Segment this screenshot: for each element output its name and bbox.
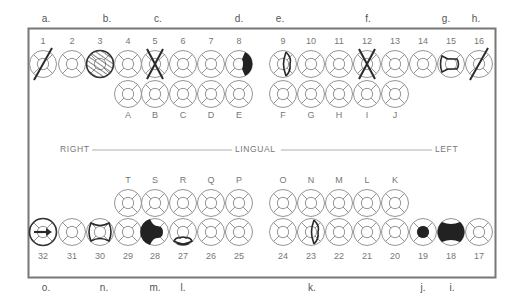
tooth-25[interactable] [226, 219, 253, 246]
annotation-label: i. [450, 282, 455, 293]
annotation-label: m. [149, 282, 160, 293]
tooth-28[interactable] [140, 219, 168, 246]
tooth-1[interactable] [30, 48, 57, 80]
tooth-number: 20 [390, 251, 400, 261]
tooth-letter: O [279, 175, 286, 185]
tooth-17[interactable] [466, 219, 493, 246]
tooth-11[interactable] [326, 51, 353, 78]
tooth-number: 24 [278, 251, 288, 261]
tooth-letter: I [366, 110, 369, 120]
tooth-32[interactable] [30, 219, 57, 246]
annotation-label: f. [365, 13, 371, 24]
primary-tooth-I[interactable] [354, 81, 381, 108]
tooth-letter: M [335, 175, 343, 185]
primary-tooth-C[interactable] [170, 81, 197, 108]
tooth-10[interactable] [298, 51, 325, 78]
tooth-9[interactable] [270, 51, 297, 78]
tooth-letter: C [180, 110, 187, 120]
tooth-letter: B [152, 110, 158, 120]
lingual-midline: RIGHT LINGUAL LEFT [60, 144, 458, 154]
tooth-letter: D [208, 110, 215, 120]
tooth-29[interactable] [115, 219, 142, 246]
tooth-3[interactable] [87, 51, 114, 78]
tooth-letter: L [364, 175, 369, 185]
tooth-letter: T [125, 175, 131, 185]
tooth-16[interactable] [466, 48, 493, 80]
tooth-number: 22 [334, 251, 344, 261]
tooth-letter: J [393, 110, 398, 120]
tooth-26[interactable] [198, 219, 225, 246]
tooth-number: 5 [152, 36, 157, 46]
primary-tooth-O[interactable] [270, 190, 297, 217]
tooth-letter: G [307, 110, 314, 120]
tooth-18[interactable] [438, 219, 465, 246]
primary-tooth-M[interactable] [326, 190, 353, 217]
tooth-24[interactable] [270, 219, 297, 246]
primary-tooth-N[interactable] [298, 190, 325, 217]
tooth-8[interactable] [226, 51, 253, 78]
tooth-7[interactable] [198, 51, 225, 78]
primary-tooth-B[interactable] [142, 81, 169, 108]
tooth-number: 10 [306, 36, 316, 46]
midline-left-label: LEFT [435, 144, 458, 154]
tooth-letter: A [125, 110, 131, 120]
tooth-number: 25 [234, 251, 244, 261]
tooth-14[interactable] [410, 51, 437, 78]
annotation-label: b. [103, 13, 111, 24]
tooth-letter: Q [207, 175, 214, 185]
primary-tooth-Q[interactable] [198, 190, 225, 217]
tooth-letter: P [236, 175, 242, 185]
tooth-number: 27 [178, 251, 188, 261]
tooth-number: 16 [474, 36, 484, 46]
primary-tooth-G[interactable] [298, 81, 325, 108]
annotation-label: g. [442, 13, 450, 24]
primary-tooth-K[interactable] [382, 190, 409, 217]
primary-tooth-H[interactable] [326, 81, 353, 108]
tooth-number: 2 [69, 36, 74, 46]
tooth-20[interactable] [382, 219, 409, 246]
tooth-number: 1 [40, 36, 45, 46]
tooth-12[interactable] [354, 49, 381, 79]
tooth-27[interactable] [170, 219, 197, 246]
tooth-number: 30 [95, 251, 105, 261]
tooth-number: 4 [125, 36, 130, 46]
tooth-number: 3 [97, 36, 102, 46]
primary-tooth-J[interactable] [382, 81, 409, 108]
tooth-number: 15 [446, 36, 456, 46]
annotation-label: a. [42, 13, 50, 24]
tooth-number: 17 [474, 251, 484, 261]
tooth-22[interactable] [326, 219, 353, 246]
tooth-5[interactable] [142, 49, 169, 79]
tooth-19[interactable] [410, 219, 437, 246]
primary-tooth-P[interactable] [226, 190, 253, 217]
tooth-15[interactable] [438, 51, 465, 78]
primary-tooth-T[interactable] [115, 190, 142, 217]
primary-tooth-S[interactable] [142, 190, 169, 217]
primary-tooth-L[interactable] [354, 190, 381, 217]
annotation-label: k. [308, 282, 316, 293]
tooth-number: 23 [306, 251, 316, 261]
primary-tooth-R[interactable] [170, 190, 197, 217]
crown-hatch-icon [87, 51, 114, 78]
annotation-label: d. [235, 13, 243, 24]
tooth-letter: F [280, 110, 286, 120]
tooth-13[interactable] [382, 51, 409, 78]
primary-tooth-E[interactable] [226, 81, 253, 108]
tooth-6[interactable] [170, 51, 197, 78]
tooth-number: 21 [362, 251, 372, 261]
primary-tooth-D[interactable] [198, 81, 225, 108]
tooth-number: 28 [150, 251, 160, 261]
tooth-2[interactable] [59, 51, 86, 78]
tooth-23[interactable] [298, 219, 325, 246]
tooth-30[interactable] [87, 219, 114, 246]
tooth-21[interactable] [354, 219, 381, 246]
annotation-label: c. [154, 13, 162, 24]
tooth-31[interactable] [59, 219, 86, 246]
primary-tooth-A[interactable] [115, 81, 142, 108]
tooth-4[interactable] [115, 51, 142, 78]
primary-tooth-F[interactable] [270, 81, 297, 108]
restoration-fill-icon [242, 52, 252, 76]
tooth-letter: R [180, 175, 187, 185]
tooth-letter: K [392, 175, 398, 185]
tooth-number: 11 [334, 36, 343, 46]
